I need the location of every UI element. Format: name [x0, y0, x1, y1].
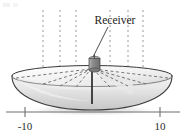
- figure-canvas: Receiver -10 10: [0, 0, 186, 135]
- axis-tick-label-10: 10: [155, 120, 167, 132]
- receiver-label: Receiver: [95, 14, 136, 26]
- satellite-dish-figure: Receiver -10 10: [0, 0, 186, 135]
- receiver-leader-line: [93, 27, 108, 57]
- scan-artifact: [3, 3, 18, 7]
- axis-tick-label-minus-10: -10: [18, 120, 33, 132]
- receiver-unit: [89, 55, 100, 73]
